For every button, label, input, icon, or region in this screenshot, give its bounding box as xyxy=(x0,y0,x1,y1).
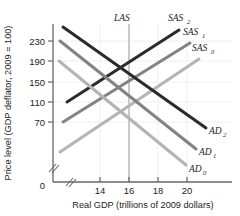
vertical-gridlines xyxy=(100,24,187,182)
curve-label-ad2-sub: 2 xyxy=(223,131,227,138)
y-axis-title: Price level (GDP deflator, 2009 = 100) xyxy=(3,26,13,181)
xtick-label-20: 20 xyxy=(182,185,193,196)
xtick-label-18: 18 xyxy=(153,185,164,196)
curve-label-ad1-sub: 1 xyxy=(213,152,216,159)
x-axis-ticks xyxy=(100,177,187,182)
curve-label-ad0-text: AD xyxy=(188,164,202,174)
y-axis-break-icon xyxy=(49,164,59,173)
curve-label-sas0-sub: 0 xyxy=(211,48,215,55)
ytick-label-150: 150 xyxy=(29,77,45,88)
y-axis-ticks xyxy=(48,41,53,122)
curve-label-sas0-text: SAS xyxy=(192,43,208,53)
curve-label-ad2-text: AD xyxy=(208,126,222,136)
curve-label-ad0-sub: 0 xyxy=(203,169,207,176)
curve-label-sas1-sub: 1 xyxy=(202,32,205,39)
curve-ad2 xyxy=(63,27,206,128)
curve-label-ad0: AD 0 xyxy=(188,164,207,176)
ytick-label-0: 0 xyxy=(40,180,45,191)
curve-label-sas0: SAS 0 xyxy=(192,43,215,55)
curve-label-sas1-text: SAS xyxy=(183,27,199,37)
ytick-label-190: 190 xyxy=(29,56,45,67)
xtick-label-16: 16 xyxy=(124,185,135,196)
ytick-label-230: 230 xyxy=(29,36,45,47)
ytick-label-70: 70 xyxy=(34,117,45,128)
curve-label-las: LAS xyxy=(113,13,130,23)
curve-label-sas2-sub: 2 xyxy=(187,18,191,25)
curve-label-las-text: LAS xyxy=(113,13,130,23)
curve-label-sas2: SAS 2 xyxy=(168,13,191,25)
curve-label-ad1: AD 1 xyxy=(198,147,216,159)
curve-label-ad2: AD 2 xyxy=(208,126,227,138)
curve-label-ad1-text: AD xyxy=(198,147,212,157)
curve-label-sas2-text: SAS xyxy=(168,13,184,23)
xtick-label-14: 14 xyxy=(95,185,106,196)
as-ad-chart: 230 190 150 110 70 0 14 16 18 20 Real GD… xyxy=(0,0,240,216)
ytick-label-110: 110 xyxy=(30,97,45,108)
curve-label-sas1: SAS 1 xyxy=(183,27,205,39)
x-axis-title: Real GDP (trillions of 2009 dollars) xyxy=(72,200,213,210)
chart-canvas: 230 190 150 110 70 0 14 16 18 20 Real GD… xyxy=(0,0,240,216)
